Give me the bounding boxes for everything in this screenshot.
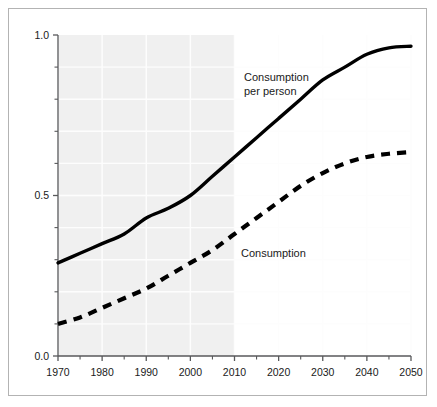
x-axis-tick-label: 2000 bbox=[179, 366, 203, 378]
x-axis-tick-label: 2010 bbox=[223, 366, 247, 378]
x-axis-tick-label: 2050 bbox=[399, 366, 423, 378]
y-axis-tick-label: 1.0 bbox=[34, 29, 49, 41]
x-axis bbox=[58, 356, 411, 361]
line-chart: 0.00.51.0 197019801990200020102020203020… bbox=[9, 9, 426, 395]
consumption-label: Consumption bbox=[241, 247, 306, 259]
x-axis-tick-label: 1990 bbox=[135, 366, 159, 378]
chart-figure: 0.00.51.0 197019801990200020102020203020… bbox=[0, 0, 437, 407]
x-axis-tick-label: 1980 bbox=[90, 366, 114, 378]
y-axis bbox=[53, 35, 58, 356]
figure-frame: 0.00.51.0 197019801990200020102020203020… bbox=[8, 8, 427, 396]
x-axis-tick-label: 2030 bbox=[311, 366, 335, 378]
y-axis-tick-labels: 0.00.51.0 bbox=[34, 29, 49, 362]
x-axis-tick-label: 1970 bbox=[46, 366, 70, 378]
y-axis-tick-label: 0.5 bbox=[34, 189, 49, 201]
y-axis-tick-label: 0.0 bbox=[34, 350, 49, 362]
x-axis-tick-labels: 197019801990200020102020203020402050 bbox=[46, 366, 423, 378]
x-axis-tick-label: 2040 bbox=[355, 366, 379, 378]
x-axis-tick-label: 2020 bbox=[267, 366, 291, 378]
